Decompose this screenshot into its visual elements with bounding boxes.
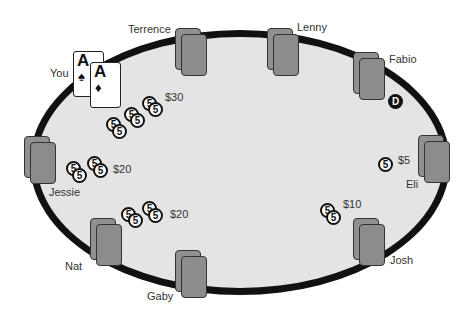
card-back-icon [359, 224, 385, 266]
player-name-fabio: Fabio [389, 53, 417, 65]
chip-icon: 5 [93, 163, 108, 178]
player-name-lenny: Lenny [297, 21, 327, 33]
spade-icon: ♠ [78, 70, 85, 84]
player-name-eli: Eli [406, 178, 418, 190]
card-back-icon [273, 34, 299, 76]
bet-amount-eli: $5 [398, 154, 410, 166]
player-name-gaby: Gaby [147, 290, 173, 302]
seat-terrence[interactable] [175, 28, 209, 78]
seat-lenny[interactable] [267, 28, 301, 78]
chip-icon: 5 [326, 210, 341, 225]
diamond-icon: ♦ [95, 81, 102, 95]
player-name-josh: Josh [390, 254, 413, 266]
chip-icon: 5 [128, 213, 143, 228]
chip-icon: 5 [148, 102, 163, 117]
seat-gaby[interactable] [175, 250, 209, 300]
seat-eli[interactable] [418, 135, 452, 185]
bet-amount-nat: $20 [170, 208, 188, 220]
card-back-icon [424, 141, 450, 183]
chip-icon: 5 [72, 168, 87, 183]
player-name-jessie: Jessie [49, 186, 80, 198]
card-rank: A [77, 52, 89, 70]
player-name-nat: Nat [65, 260, 82, 272]
seat-josh[interactable] [353, 218, 387, 268]
chip-icon: 5 [378, 157, 393, 172]
card-back-icon [181, 34, 207, 76]
bet-amount-josh: $10 [343, 198, 361, 210]
player-name-terrence: Terrence [128, 23, 171, 35]
dealer-button: D [388, 94, 403, 109]
hero-card-ace-diamonds[interactable]: A ♦ [90, 62, 121, 108]
player-name-you: You [50, 67, 69, 79]
chip-icon: 5 [130, 113, 145, 128]
seat-nat[interactable] [90, 218, 124, 268]
bet-amount-you: $30 [165, 91, 183, 103]
chip-icon: 5 [112, 124, 127, 139]
card-back-icon [359, 58, 385, 100]
chip-icon: 5 [148, 208, 163, 223]
seat-jessie[interactable] [24, 136, 58, 186]
bet-amount-jessie: $20 [113, 163, 131, 175]
card-back-icon [181, 256, 207, 298]
card-rank: A [94, 63, 106, 81]
card-back-icon [30, 142, 56, 184]
seat-fabio[interactable] [353, 52, 387, 102]
card-back-icon [96, 224, 122, 266]
